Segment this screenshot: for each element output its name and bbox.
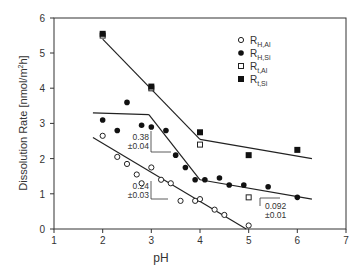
filled-circle-data-point xyxy=(241,182,247,188)
x-tick-label: 5 xyxy=(246,235,252,246)
y-tick-label: 0 xyxy=(39,224,45,235)
filled-square-data-point xyxy=(246,152,252,158)
legend-label: RH,Si xyxy=(250,48,271,61)
filled-circle-data-point xyxy=(217,175,223,181)
open-circle-data-point xyxy=(149,165,154,170)
open-circle-data-point xyxy=(115,154,120,159)
legend: RH,Al RH,Si Rt,Al Rt,Si xyxy=(238,35,271,87)
filled-square-data-point xyxy=(148,84,154,90)
legend-label: Rt,Al xyxy=(250,61,268,74)
y-tick-label: 5 xyxy=(39,48,45,59)
filled-circle-data-point xyxy=(139,122,145,128)
x-tick-label: 3 xyxy=(149,235,155,246)
x-tick-label: 2 xyxy=(100,235,106,246)
open-circle-data-point xyxy=(222,212,227,217)
open-circle-data-point xyxy=(100,133,105,138)
y-tick-label: 6 xyxy=(39,13,45,24)
filled-circle-data-point xyxy=(192,177,198,183)
y-tick-label: 3 xyxy=(39,118,45,129)
y-axis-label: Dissolution Rate [nmol/m2h] xyxy=(17,55,29,190)
filled-circle-data-point xyxy=(173,152,179,158)
filled-circle-data-point xyxy=(183,165,189,171)
y-tick-label: 4 xyxy=(39,83,45,94)
open-circle-data-point xyxy=(197,197,202,202)
filled-circle-data-point xyxy=(295,195,301,201)
filled-square-marker-icon xyxy=(238,76,244,82)
x-axis-label: pH xyxy=(153,251,168,265)
filled-circle-data-point xyxy=(149,124,155,130)
x-axis xyxy=(54,229,346,233)
open-circle-data-point xyxy=(134,172,139,177)
slope-error: ±0.04 xyxy=(128,141,149,151)
legend-label: RH,Al xyxy=(250,35,271,48)
open-circle-data-point xyxy=(178,198,183,203)
filled-square-data-point xyxy=(294,147,300,153)
filled-circle-data-point xyxy=(202,177,208,183)
open-circle-data-point xyxy=(212,207,217,212)
filled-circle-data-point xyxy=(265,184,271,190)
open-circle-data-point xyxy=(158,177,163,182)
filled-circle-data-point xyxy=(124,100,130,106)
slope-error: ±0.01 xyxy=(265,210,286,220)
x-tick-label: 1 xyxy=(51,235,57,246)
y-tick-label: 2 xyxy=(39,154,45,165)
y-axis xyxy=(50,18,54,229)
open-circle-data-point xyxy=(139,181,144,186)
open-circle-data-point xyxy=(246,223,251,228)
filled-circle-data-point xyxy=(226,182,232,188)
dissolution-rate-chart: 0 1 2 3 4 5 6 1 2 3 4 5 6 7 pH Dissoluti… xyxy=(0,0,361,272)
filled-circle-marker-icon xyxy=(238,50,244,56)
x-tick-label: 6 xyxy=(295,235,301,246)
slope-error: ±0.03 xyxy=(128,190,149,200)
open-circle-data-point xyxy=(124,161,129,166)
filled-circle-data-point xyxy=(100,117,106,123)
open-circle-marker-icon xyxy=(238,37,243,42)
fit-line xyxy=(93,113,149,115)
filled-circle-data-point xyxy=(163,128,169,134)
filled-circle-data-point xyxy=(114,128,120,134)
fit-line xyxy=(149,115,200,180)
x-tick-label: 7 xyxy=(343,235,349,246)
filled-square-data-point xyxy=(100,31,106,37)
y-tick-label: 1 xyxy=(39,189,45,200)
legend-label: Rt,Si xyxy=(250,74,268,87)
x-tick-label: 4 xyxy=(197,235,203,246)
open-square-marker-icon xyxy=(239,64,244,69)
open-square-data-point xyxy=(246,195,251,200)
open-circle-data-point xyxy=(168,181,173,186)
filled-square-data-point xyxy=(197,129,203,135)
open-square-data-point xyxy=(198,142,203,147)
